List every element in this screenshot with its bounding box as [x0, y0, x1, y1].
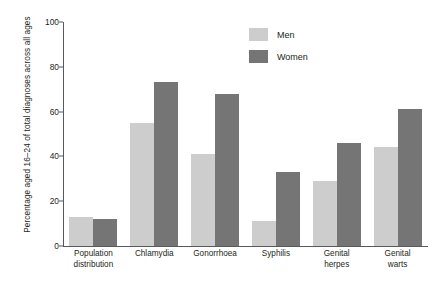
- x-category-label: Syphilis: [245, 249, 306, 270]
- y-axis-title: Percentage aged 16–24 of total diagnoses…: [23, 5, 32, 245]
- y-tick-label: 100: [45, 17, 59, 27]
- x-category-label-line: Genital: [367, 249, 428, 260]
- bar-men: [69, 217, 93, 246]
- x-category-label-line: herpes: [306, 260, 367, 271]
- bar-men: [374, 147, 398, 246]
- x-category-label: Genitalherpes: [306, 249, 367, 270]
- x-axis-category-labels: PopulationdistributionChlamydiaGonorrhoe…: [63, 249, 428, 270]
- x-category-label-line: warts: [367, 260, 428, 271]
- bar-men: [313, 181, 337, 246]
- bar-group: [63, 22, 124, 246]
- bar-women: [398, 109, 422, 246]
- legend-item-women: Women: [249, 50, 308, 63]
- bar-group: [124, 22, 185, 246]
- bar-men: [130, 123, 154, 246]
- bar-men: [252, 221, 276, 246]
- x-category-label-line: Population: [63, 249, 124, 260]
- bar-women: [93, 219, 117, 246]
- x-category-label-line: distribution: [63, 260, 124, 271]
- y-tick-label: 40: [50, 151, 59, 161]
- bar-group: [185, 22, 246, 246]
- bar-men: [191, 154, 215, 246]
- x-category-label-line: Gonorrhoea: [185, 249, 246, 260]
- x-category-label: Genitalwarts: [367, 249, 428, 270]
- chart-legend: Men Women: [249, 28, 308, 63]
- bar-group: [367, 22, 428, 246]
- bar-group: [306, 22, 367, 246]
- y-tick-label: 80: [50, 62, 59, 72]
- x-category-label: Gonorrhoea: [185, 249, 246, 270]
- bar-women: [215, 94, 239, 246]
- x-category-label-line: Syphilis: [245, 249, 306, 260]
- y-tick-label: 20: [50, 196, 59, 206]
- legend-label-men: Men: [277, 30, 295, 40]
- bar-women: [276, 172, 300, 246]
- x-category-label-line: Genital: [306, 249, 367, 260]
- top-margin-spacer: [0, 0, 435, 6]
- bar-groups: [63, 22, 428, 246]
- bar-women: [154, 82, 178, 246]
- x-category-label-line: Chlamydia: [124, 249, 185, 260]
- x-category-label: Populationdistribution: [63, 249, 124, 270]
- legend-item-men: Men: [249, 28, 308, 41]
- legend-label-women: Women: [277, 52, 308, 62]
- x-axis-line: [63, 246, 428, 247]
- bar-women: [337, 143, 361, 246]
- y-tick-label: 60: [50, 107, 59, 117]
- legend-swatch-women-icon: [249, 50, 268, 63]
- x-category-label: Chlamydia: [124, 249, 185, 270]
- legend-swatch-men-icon: [249, 28, 268, 41]
- plot-area: 100806040200: [63, 22, 428, 246]
- bar-chart: Percentage aged 16–24 of total diagnoses…: [0, 0, 435, 288]
